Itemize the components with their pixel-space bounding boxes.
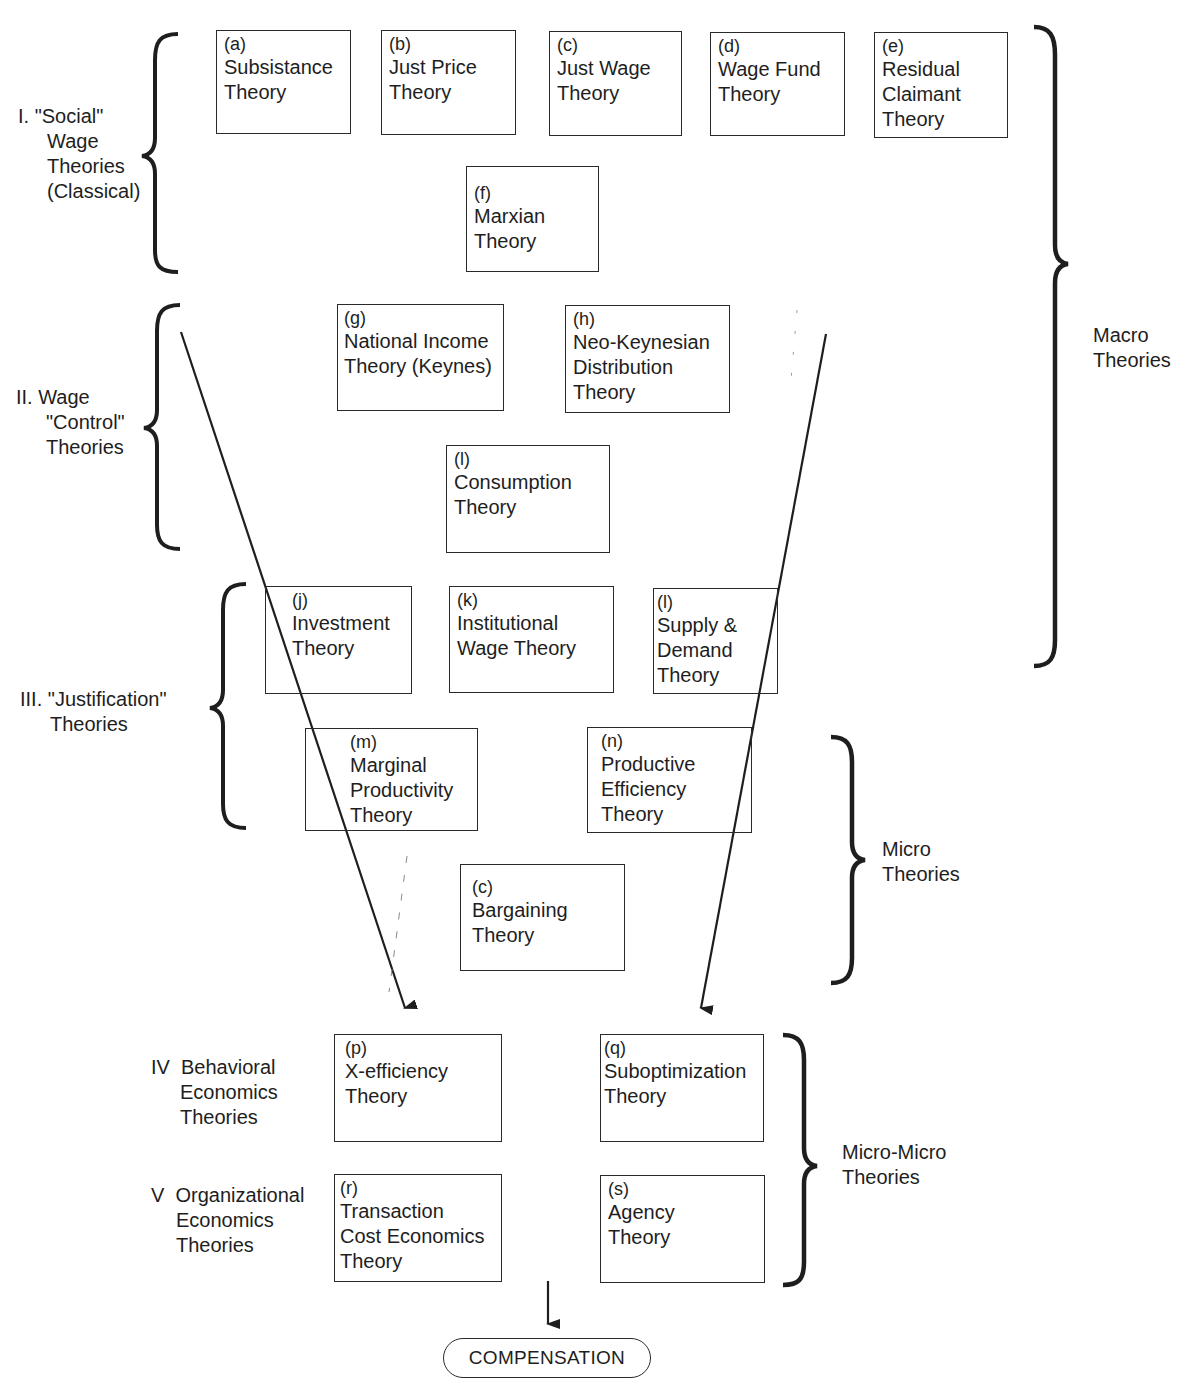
theory-box-e-residual-claimant: (e) Residual Claimant Theory: [874, 32, 1008, 138]
theory-box-i-consumption: (l) Consumption Theory: [446, 445, 610, 553]
category-label-V: V Organizational Economics Theories: [151, 1183, 304, 1258]
theory-box-f-marxian: (f) Marxian Theory: [466, 166, 599, 272]
theory-box-h-neo-keynesian: (h) Neo-Keynesian Distribution Theory: [565, 305, 730, 413]
theory-box-b-just-price: (b) Just Price Theory: [381, 30, 516, 135]
category-label-IV: IV Behavioral Economics Theories: [151, 1055, 278, 1130]
theory-box-m-marginal-productivity: (m) Marginal Productivity Theory: [305, 728, 478, 831]
category-label-II: II. Wage "Control" Theories: [16, 385, 125, 460]
theory-box-c-bargaining: (c) Bargaining Theory: [460, 864, 625, 971]
brace-category-II: [144, 305, 180, 549]
theory-box-n-productive-efficiency: (n) Productive Efficiency Theory: [587, 727, 752, 833]
compensation-node: COMPENSATION: [443, 1338, 651, 1378]
theory-box-c-just-wage: (c) Just Wage Theory: [549, 31, 682, 136]
compensation-theories-diagram: I. "Social" Wage Theories (Classical) II…: [0, 0, 1203, 1394]
theory-box-r-transaction-cost: (r) Transaction Cost Economics Theory: [334, 1174, 502, 1282]
scope-label-micro-micro: Micro-Micro Theories: [842, 1140, 946, 1190]
category-label-I: I. "Social" Wage Theories (Classical): [18, 104, 140, 204]
brace-category-III: [210, 584, 246, 828]
scope-label-micro: Micro Theories: [882, 837, 960, 887]
brace-macro: [1034, 27, 1068, 666]
theory-box-j-investment: (j) Investment Theory: [265, 586, 412, 694]
brace-category-I: [142, 34, 178, 272]
brace-micro-micro: [783, 1035, 817, 1285]
scope-label-macro: Macro Theories: [1093, 323, 1171, 373]
theory-box-p-x-efficiency: (p) X-efficiency Theory: [334, 1034, 502, 1142]
theory-box-d-wage-fund: (d) Wage Fund Theory: [710, 32, 845, 136]
theory-box-k-institutional-wage: (k) Institutional Wage Theory: [449, 586, 614, 693]
theory-box-s-agency: (s) Agency Theory: [600, 1175, 765, 1283]
theory-box-l-supply-demand: (l) Supply & Demand Theory: [653, 588, 778, 694]
category-label-III: III. "Justification" Theories: [20, 687, 166, 737]
theory-box-g-national-income: (g) National Income Theory (Keynes): [337, 304, 504, 411]
brace-micro: [831, 737, 865, 983]
theory-box-a-subsistance: (a) Subsistance Theory: [216, 30, 351, 134]
theory-box-q-suboptimization: (q) Suboptimization Theory: [600, 1034, 764, 1142]
